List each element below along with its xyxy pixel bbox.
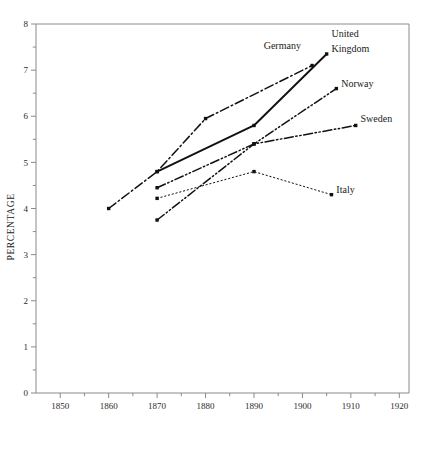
y-tick-label: 0 bbox=[24, 388, 29, 398]
y-tick-label: 1 bbox=[24, 342, 29, 352]
series-line bbox=[109, 66, 312, 209]
data-point-marker bbox=[310, 64, 313, 67]
data-point-marker bbox=[252, 142, 255, 145]
x-tick-label: 1900 bbox=[293, 401, 312, 411]
y-tick-label: 6 bbox=[24, 111, 29, 121]
data-point-marker bbox=[155, 170, 158, 173]
series-germany bbox=[107, 64, 314, 210]
data-point-marker bbox=[204, 117, 207, 120]
y-tick-label: 7 bbox=[24, 65, 29, 75]
data-series bbox=[107, 52, 357, 221]
y-axis-title-text: PERCENTAGE bbox=[6, 193, 16, 260]
y-tick-label: 3 bbox=[24, 250, 29, 260]
series-label-text: Germany bbox=[264, 40, 301, 51]
x-tick-label: 1860 bbox=[100, 401, 119, 411]
data-point-marker bbox=[252, 170, 255, 173]
series-label-text: Italy bbox=[336, 184, 354, 195]
x-tick-label: 1920 bbox=[390, 401, 409, 411]
series-label-text: Norway bbox=[341, 78, 373, 89]
series-label-text: Kingdom bbox=[331, 43, 369, 54]
y-axis-title: PERCENTAGE bbox=[6, 193, 16, 260]
series-label-text: United bbox=[331, 28, 358, 39]
series-label-text: Sweden bbox=[361, 113, 393, 124]
y-tick-label: 4 bbox=[24, 204, 29, 214]
x-tick-label: 1870 bbox=[148, 401, 167, 411]
series-norway bbox=[155, 87, 338, 222]
data-point-marker bbox=[155, 197, 158, 200]
series-sweden bbox=[155, 124, 357, 190]
series-italy bbox=[155, 170, 333, 200]
x-tick-label: 1910 bbox=[342, 401, 361, 411]
data-point-marker bbox=[252, 124, 255, 127]
data-point-marker bbox=[107, 207, 110, 210]
x-tick-label: 1890 bbox=[245, 401, 264, 411]
x-tick-label: 1880 bbox=[197, 401, 216, 411]
y-tick-label: 2 bbox=[24, 296, 29, 306]
data-point-marker bbox=[155, 218, 158, 221]
series-line bbox=[157, 89, 336, 220]
line-chart: 0123456781850186018701880189019001910192… bbox=[0, 0, 432, 455]
data-point-marker bbox=[330, 193, 333, 196]
y-tick-label: 5 bbox=[24, 158, 29, 168]
x-tick-label: 1850 bbox=[51, 401, 70, 411]
data-point-marker bbox=[335, 87, 338, 90]
data-point-marker bbox=[325, 52, 328, 55]
y-tick-label: 8 bbox=[24, 19, 29, 29]
data-point-marker bbox=[155, 186, 158, 189]
data-point-marker bbox=[354, 124, 357, 127]
chart-page: 0123456781850186018701880189019001910192… bbox=[0, 0, 432, 455]
